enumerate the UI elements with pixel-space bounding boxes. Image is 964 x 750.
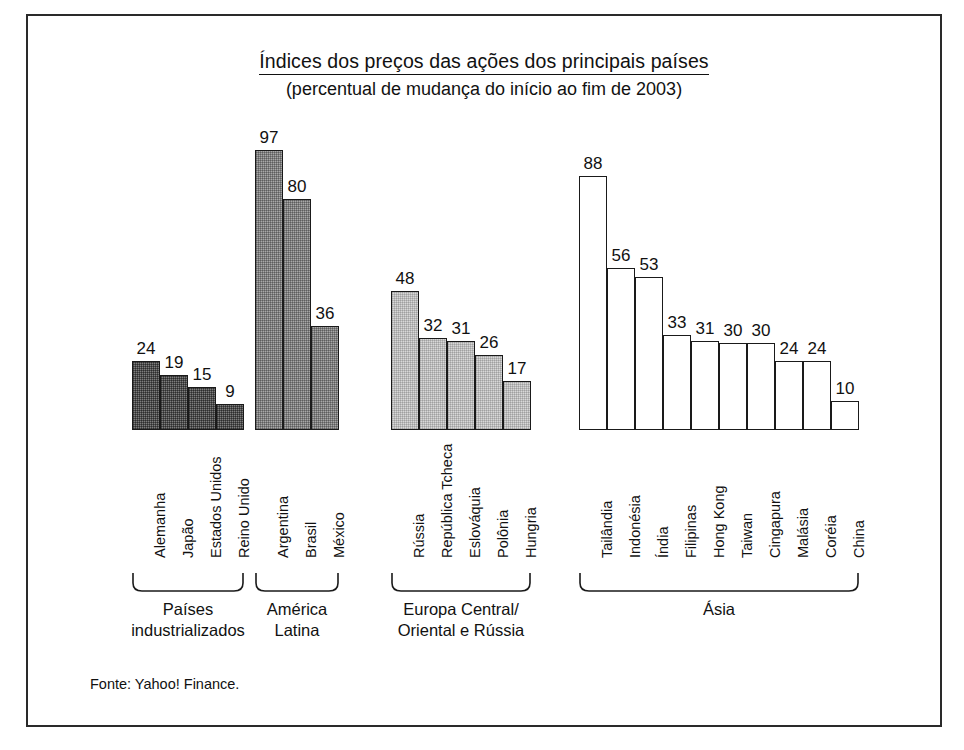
bar <box>419 338 447 430</box>
chart-frame: Índices dos preços das ações dos princip… <box>26 14 942 727</box>
category-label: Eslováquia <box>467 487 483 558</box>
category-label: Indonésia <box>627 495 643 558</box>
bar <box>719 343 747 430</box>
category-label: República Tcheca <box>439 444 455 558</box>
category-label: Cingapura <box>767 491 783 558</box>
bar <box>391 291 419 430</box>
category-label: Alemanha <box>152 493 168 558</box>
bar-value-label: 97 <box>247 128 291 148</box>
category-label: Taiwan <box>739 513 755 558</box>
category-label: Polônia <box>495 510 511 558</box>
bar <box>775 361 803 430</box>
bar <box>447 341 475 430</box>
bar-value-label: 80 <box>275 177 319 197</box>
source-note: Fonte: Yahoo! Finance. <box>90 676 239 692</box>
group-caption-line: Europa Central/ <box>351 599 571 620</box>
category-label: Estados Unidos <box>208 456 224 558</box>
bar <box>831 401 859 430</box>
bar <box>311 326 339 430</box>
category-label: China <box>851 520 867 558</box>
bar-value-label: 88 <box>571 154 615 174</box>
bar <box>635 277 663 430</box>
category-label: Hungria <box>523 507 539 558</box>
category-label: Brasil <box>303 522 319 558</box>
group-caption-line: Ásia <box>539 599 899 620</box>
bar <box>691 341 719 430</box>
bar-value-label: 36 <box>303 304 347 324</box>
group-bracket <box>391 572 531 592</box>
group-bracket <box>132 572 244 592</box>
bar-value-label: 53 <box>627 255 671 275</box>
bar-value-label: 9 <box>208 382 252 402</box>
category-label: Reino Unido <box>236 478 252 558</box>
plot-area: 24Alemanha19Japão15Estados Unidos9Reino … <box>28 16 940 725</box>
bar <box>607 268 635 430</box>
bar <box>579 176 607 430</box>
category-label: Japão <box>180 518 196 558</box>
bar <box>663 335 691 430</box>
group-caption-line: Oriental e Rússia <box>351 620 571 641</box>
bar-value-label: 17 <box>495 359 539 379</box>
category-label: Filipinas <box>683 505 699 558</box>
category-label: Índia <box>655 527 671 558</box>
group-caption: Ásia <box>539 599 899 620</box>
bar-value-label: 48 <box>383 269 427 289</box>
group-caption: Europa Central/Oriental e Rússia <box>351 599 571 641</box>
category-label: Rússia <box>411 514 427 558</box>
bar-value-label: 24 <box>795 339 839 359</box>
category-label: Coréia <box>823 515 839 558</box>
bar-value-label: 26 <box>467 333 511 353</box>
bar-value-label: 30 <box>739 321 783 341</box>
category-label: Malásia <box>795 508 811 558</box>
group-bracket <box>579 572 859 592</box>
bar-value-label: 10 <box>823 379 867 399</box>
bar <box>503 381 531 430</box>
group-bracket <box>255 572 339 592</box>
category-label: Argentina <box>275 496 291 558</box>
category-label: Tailândia <box>599 501 615 558</box>
category-label: México <box>331 512 347 558</box>
category-label: Hong Kong <box>711 485 727 558</box>
bar <box>216 404 244 430</box>
